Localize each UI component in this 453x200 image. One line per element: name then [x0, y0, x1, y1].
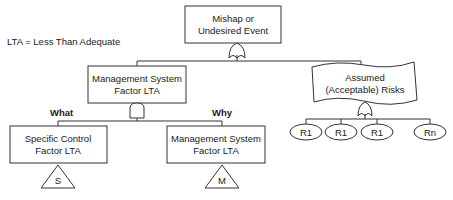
specific-control-line1: Specific Control [25, 133, 92, 144]
mgmt-system-node: Management System Factor LTA [88, 66, 186, 103]
mgmt-system-why-line1: Management System [171, 133, 261, 144]
risk-ellipse-r1-3: R1 [361, 124, 393, 140]
transfer-triangle-m-icon: M [205, 165, 239, 188]
assumed-risks-line1: Assumed [345, 72, 385, 83]
specific-control-node: Specific Control Factor LTA [10, 126, 107, 163]
mgmt-system-why-node: Management System Factor LTA [167, 126, 265, 163]
top-event-node: Mishap or Undesired Event [185, 6, 281, 43]
or-gate-risks-icon [358, 102, 372, 119]
svg-text:Rn: Rn [424, 127, 436, 138]
risk-ellipse-r1-2: R1 [325, 124, 357, 140]
risk-ellipse-rn: Rn [414, 124, 446, 140]
specific-control-line2: Factor LTA [35, 145, 81, 156]
mort-fault-tree-diagram: LTA = Less Than Adequate Mishap or Undes… [0, 0, 453, 200]
transfer-s-label: S [55, 175, 61, 186]
top-event-line2: Undesired Event [198, 25, 269, 36]
and-gate-icon [130, 103, 144, 121]
transfer-m-label: M [218, 175, 226, 186]
risk-ellipse-r1-1: R1 [290, 124, 322, 140]
svg-text:R1: R1 [300, 127, 312, 138]
what-label: What [50, 107, 74, 118]
mgmt-system-why-line2: Factor LTA [193, 145, 239, 156]
assumed-risks-node: Assumed (Acceptable) Risks [312, 62, 417, 104]
or-gate-icon [229, 43, 245, 61]
transfer-triangle-s-icon: S [41, 165, 75, 188]
legend-text: LTA = Less Than Adequate [7, 36, 120, 47]
top-event-line1: Mishap or [212, 13, 254, 24]
assumed-risks-line2: (Acceptable) Risks [325, 84, 404, 95]
why-label: Why [212, 107, 233, 118]
mgmt-system-line2: Factor LTA [114, 85, 160, 96]
svg-text:R1: R1 [335, 127, 347, 138]
svg-text:R1: R1 [371, 127, 383, 138]
mgmt-system-line1: Management System [92, 73, 182, 84]
